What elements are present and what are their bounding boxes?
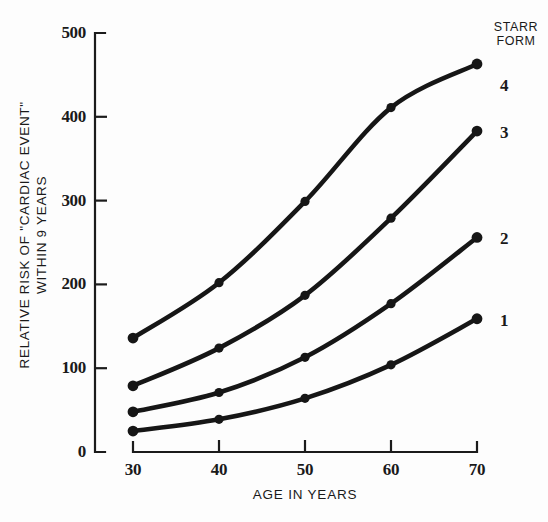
data-point [214, 343, 223, 352]
data-point [300, 353, 309, 362]
data-point [214, 278, 223, 287]
data-point [472, 313, 483, 324]
data-point [214, 415, 223, 424]
x-tick-label: 30 [125, 460, 141, 480]
data-point [128, 333, 139, 344]
data-point [472, 126, 483, 137]
series-label-4: 4 [500, 76, 509, 96]
data-point [386, 214, 395, 223]
legend-title-line2: FORM [487, 34, 545, 48]
y-axis-title-line2: WITHIN 9 YEARS [34, 101, 51, 368]
series-line-1 [133, 319, 477, 431]
series-label-2: 2 [500, 229, 509, 249]
legend-title: STARR FORM [487, 20, 545, 49]
x-axis-title: AGE IN YEARS [133, 487, 477, 502]
y-axis-title: RELATIVE RISK OF "CARDIAC EVENT" WITHIN … [17, 101, 51, 368]
data-point [386, 360, 395, 369]
data-point [386, 103, 395, 112]
data-point [128, 380, 139, 391]
series-line-2 [133, 237, 477, 411]
y-axis-title-wrap: RELATIVE RISK OF "CARDIAC EVENT" WITHIN … [10, 0, 58, 470]
x-tick-label: 70 [469, 460, 485, 480]
series-label-3: 3 [500, 123, 509, 143]
data-point [472, 232, 483, 243]
data-point [386, 299, 395, 308]
series-label-1: 1 [500, 311, 509, 331]
data-point [128, 406, 139, 417]
data-point [472, 59, 483, 70]
data-point [128, 426, 139, 437]
chart-figure: 0100200300400500 3040506070 RELATIVE RIS… [0, 0, 548, 522]
y-axis-title-line1: RELATIVE RISK OF "CARDIAC EVENT" [17, 101, 32, 368]
x-axis-ticks [219, 440, 391, 452]
data-point [300, 394, 309, 403]
x-tick-label: 40 [211, 460, 227, 480]
x-tick-label: 60 [383, 460, 399, 480]
data-series-group [128, 59, 483, 437]
y-axis-line [95, 33, 105, 452]
x-tick-label: 50 [297, 460, 313, 480]
axes [95, 33, 477, 452]
legend-title-line1: STARR [494, 20, 538, 34]
data-point [300, 291, 309, 300]
y-axis-ticks [95, 117, 107, 368]
data-point [214, 388, 223, 397]
data-point [300, 197, 309, 206]
